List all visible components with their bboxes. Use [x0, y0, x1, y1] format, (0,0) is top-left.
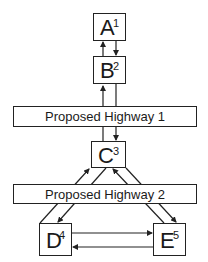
- highway-1: Proposed Highway 1: [13, 106, 197, 127]
- node-c-label: C: [98, 144, 114, 168]
- node-b: B 2: [93, 56, 126, 84]
- node-b-number: 2: [113, 60, 119, 72]
- node-a-number: 1: [113, 17, 119, 29]
- node-c: C 3: [91, 141, 126, 168]
- node-d-number: 4: [59, 229, 65, 241]
- node-d: D 4: [39, 223, 72, 256]
- highway-2-label: Proposed Highway 2: [45, 187, 165, 202]
- highway-2: Proposed Highway 2: [13, 184, 197, 204]
- node-c-number: 3: [113, 145, 119, 157]
- highway-1-label: Proposed Highway 1: [45, 109, 165, 124]
- node-e-number: 5: [173, 229, 179, 241]
- node-a: A 1: [93, 13, 126, 41]
- node-e: E 5: [153, 223, 186, 256]
